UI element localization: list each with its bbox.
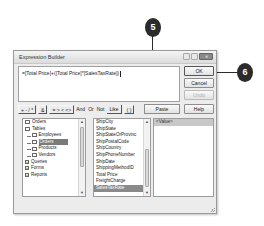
expand-plus-icon[interactable]: + bbox=[25, 160, 29, 164]
tree-item-orders-root[interactable]: Orders bbox=[23, 119, 85, 126]
folder-icon bbox=[32, 147, 37, 151]
field-item[interactable]: ShipState bbox=[94, 126, 150, 133]
ok-button[interactable]: OK bbox=[184, 66, 214, 76]
not-operator-button[interactable]: Not bbox=[97, 106, 105, 112]
concat-operator-button[interactable]: & bbox=[38, 105, 47, 114]
help-button[interactable]: Help bbox=[184, 104, 214, 114]
dialog-title: Expression Builder bbox=[19, 54, 65, 60]
folder-icon bbox=[25, 120, 30, 124]
callout-5: 5 bbox=[145, 18, 161, 37]
tree-connector bbox=[27, 147, 31, 150]
tree-item-vendors[interactable]: Vendors bbox=[23, 152, 85, 159]
folder-icon bbox=[32, 153, 37, 157]
scroll-thumb[interactable] bbox=[145, 149, 149, 187]
value-item-selected[interactable]: <Value> bbox=[154, 119, 213, 126]
field-item[interactable]: ShipDate bbox=[94, 159, 150, 166]
expression-builder-dialog: Expression Builder ✕ =[Total Price]+([To… bbox=[13, 50, 217, 214]
tree-item-products[interactable]: Products bbox=[23, 145, 85, 152]
field-item[interactable]: ShipCity bbox=[94, 119, 150, 126]
undo-button[interactable]: Undo bbox=[184, 90, 214, 100]
tree-connector bbox=[27, 154, 31, 157]
expand-plus-icon[interactable]: + bbox=[25, 173, 29, 177]
title-bar[interactable]: Expression Builder ✕ bbox=[14, 51, 216, 64]
scroll-up-arrow-icon[interactable]: ▲ bbox=[144, 119, 150, 125]
tree-item-employees[interactable]: Employees bbox=[23, 132, 85, 139]
operator-buttons: + - / * & = > < <> And Or Not Like ( ) bbox=[18, 104, 136, 114]
values-list[interactable]: <Value> bbox=[153, 118, 214, 197]
tree-item-forms[interactable]: +Forms bbox=[23, 165, 85, 172]
object-tree-list[interactable]: Orders Tables Employees Orders Products … bbox=[22, 118, 86, 197]
tree-item-tables[interactable]: Tables bbox=[23, 126, 85, 133]
tree-scrollbar[interactable]: ▲ ▼ bbox=[78, 119, 85, 196]
cancel-button[interactable]: Cancel bbox=[184, 78, 214, 88]
fields-list[interactable]: ShipCity ShipState ShipStateOrProvinc Sh… bbox=[93, 118, 151, 197]
or-operator-button[interactable]: Or bbox=[88, 106, 94, 112]
field-item[interactable]: ShipPhoneNumber bbox=[94, 152, 150, 159]
paste-button[interactable]: Paste bbox=[144, 104, 180, 114]
folder-icon bbox=[32, 133, 37, 137]
field-item[interactable]: ShipPostalCode bbox=[94, 139, 150, 146]
field-item[interactable]: ShippingMethodID bbox=[94, 165, 150, 172]
fields-scrollbar[interactable]: ▲ ▼ bbox=[143, 119, 150, 196]
comparison-operators-button[interactable]: = > < <> bbox=[49, 105, 74, 114]
expression-text: =[Total Price]+([Total Price]*[SalesTaxR… bbox=[22, 70, 121, 77]
resize-grip-icon[interactable] bbox=[210, 207, 215, 212]
scroll-down-arrow-icon[interactable]: ▼ bbox=[79, 190, 85, 196]
expression-input[interactable]: =[Total Price]+([Total Price]*[SalesTaxR… bbox=[18, 66, 180, 102]
scroll-down-arrow-icon[interactable]: ▼ bbox=[144, 190, 150, 196]
arithmetic-operators-button[interactable]: + - / * bbox=[18, 105, 36, 114]
text-caret bbox=[120, 71, 121, 77]
folder-open-icon bbox=[25, 127, 30, 131]
expand-plus-icon[interactable]: + bbox=[25, 166, 29, 170]
and-operator-button[interactable]: And bbox=[76, 106, 85, 112]
field-item[interactable]: Total Price bbox=[94, 172, 150, 179]
field-item[interactable]: FreightCharge bbox=[94, 178, 150, 185]
parentheses-button[interactable]: ( ) bbox=[124, 105, 135, 114]
window-controls: ✕ bbox=[183, 53, 213, 60]
tree-connector bbox=[27, 134, 31, 137]
close-button[interactable]: ✕ bbox=[199, 53, 213, 60]
maximize-button[interactable] bbox=[191, 53, 198, 60]
minimize-button[interactable] bbox=[183, 53, 190, 60]
close-icon: ✕ bbox=[205, 54, 208, 59]
tree-connector bbox=[27, 141, 31, 144]
tree-item-queries[interactable]: +Queries bbox=[23, 159, 85, 166]
folder-open-icon bbox=[32, 140, 37, 144]
tree-item-orders-table[interactable]: Orders bbox=[23, 139, 85, 146]
field-item[interactable]: ShipCountry bbox=[94, 145, 150, 152]
tree-item-reports[interactable]: +Reports bbox=[23, 172, 85, 179]
like-operator-button[interactable]: Like bbox=[107, 105, 121, 114]
scroll-up-arrow-icon[interactable]: ▲ bbox=[79, 119, 85, 125]
scroll-thumb[interactable] bbox=[80, 127, 84, 167]
field-item[interactable]: ShipStateOrProvinc bbox=[94, 132, 150, 139]
callout-6: 6 bbox=[237, 63, 253, 82]
field-item-selected[interactable]: SalesTaxRate bbox=[94, 185, 143, 192]
